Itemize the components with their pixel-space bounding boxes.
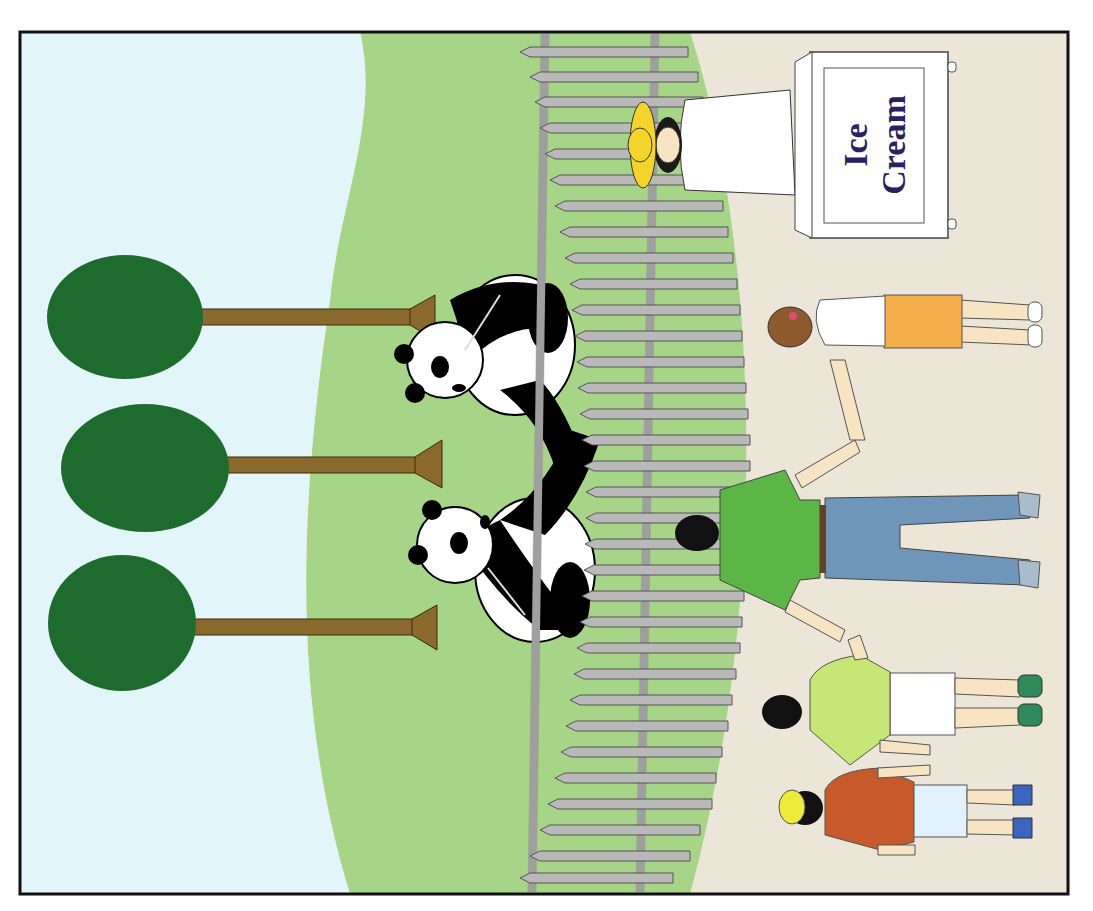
- cart-knob-bottom: [948, 219, 956, 229]
- vendor-hat-crown: [628, 128, 652, 162]
- cart-knob-top: [948, 62, 956, 72]
- zoo-scene: Ice Cream: [0, 0, 1093, 911]
- panda-leg: [550, 562, 590, 638]
- boy-shoe: [1018, 675, 1042, 697]
- panda-leg: [528, 283, 568, 353]
- boy-shorts: [890, 673, 955, 735]
- kid-arm: [878, 845, 915, 855]
- man-shoe: [1018, 560, 1040, 588]
- panda-eye-patch: [431, 356, 449, 378]
- girl-shirt: [816, 296, 885, 346]
- girl-shoe: [1028, 302, 1042, 322]
- ice-cream-cart: Ice Cream: [795, 52, 956, 238]
- man-shoe: [1018, 492, 1040, 518]
- tree-foliage: [48, 555, 196, 691]
- girl-hair: [768, 307, 812, 347]
- kid-shoe: [1013, 785, 1032, 805]
- girl-skirt: [884, 295, 962, 348]
- panda-ear: [422, 500, 442, 520]
- panda-ear: [408, 545, 428, 565]
- girl-shoe: [1028, 325, 1042, 347]
- tree-trunk: [190, 619, 425, 635]
- kid-shoe: [1013, 818, 1032, 838]
- tree-trunk: [195, 309, 425, 325]
- girl-hair-tie: [789, 312, 797, 320]
- boy-head: [762, 695, 802, 729]
- kid-shorts: [912, 785, 967, 837]
- tree-foliage: [47, 255, 203, 379]
- tree-foliage: [61, 404, 229, 532]
- panda-nose: [452, 384, 466, 392]
- panda-nose: [480, 515, 490, 529]
- panda-eye-patch: [450, 532, 468, 554]
- panda-ear: [405, 383, 425, 403]
- kid-cap: [779, 790, 805, 824]
- panda-ear: [394, 344, 414, 364]
- tree-trunk: [222, 457, 427, 473]
- man-head: [675, 515, 719, 551]
- vendor-body: [680, 90, 795, 195]
- sign-text-line1: Ice: [837, 123, 874, 166]
- vendor-face: [656, 127, 680, 163]
- boy-shoe: [1018, 704, 1042, 726]
- cart-side: [795, 52, 812, 238]
- sign-text-line2: Cream: [875, 95, 912, 194]
- kid-shirt: [825, 768, 914, 850]
